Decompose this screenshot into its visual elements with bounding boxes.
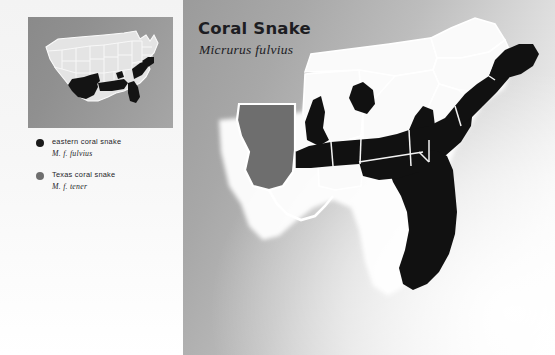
page-subtitle: Micrurus fulvius — [199, 42, 311, 58]
title-block: Coral Snake Micrurus fulvius — [198, 20, 311, 58]
filled-circle-icon — [36, 172, 44, 180]
legend-common-name: eastern coral snake — [52, 137, 176, 148]
united-states-overview-map — [28, 17, 173, 128]
filled-circle-icon — [36, 139, 44, 147]
state-tennessee — [305, 38, 437, 76]
main-map-panel: Coral Snake Micrurus fulvius — [183, 0, 555, 355]
legend-scientific-name: M. f. fulvius — [52, 148, 176, 160]
legend: eastern coral snake M. f. fulvius Texas … — [36, 137, 176, 204]
legend-scientific-name: M. f. tener — [52, 181, 176, 193]
map-page: Coral Snake Micrurus fulvius — [0, 0, 555, 355]
inset-map-panel — [28, 17, 173, 128]
legend-item-eastern-coral-snake[interactable]: eastern coral snake M. f. fulvius — [36, 137, 176, 159]
page-title: Coral Snake — [198, 20, 311, 38]
legend-item-texas-coral-snake[interactable]: Texas coral snake M. f. tener — [36, 170, 176, 192]
legend-common-name: Texas coral snake — [52, 170, 176, 181]
